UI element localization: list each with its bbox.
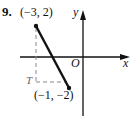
y-axis	[80, 10, 86, 116]
x-axis-arrow-icon	[120, 54, 130, 60]
point-start-dot-icon	[34, 24, 38, 28]
point-end-dot-icon	[67, 86, 71, 90]
coordinate-plane	[0, 0, 140, 121]
y-axis-arrow-icon	[80, 10, 86, 20]
